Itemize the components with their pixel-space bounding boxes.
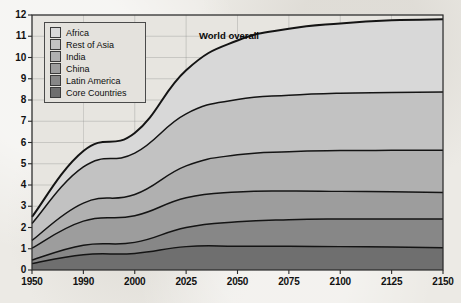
chart-legend: Africa Rest of Asia India China Latin Am… <box>44 22 146 103</box>
y-axis-tick-label: 12 <box>4 9 26 20</box>
y-axis-tick-label: 9 <box>4 73 26 84</box>
legend-swatch-latin-america <box>50 75 61 86</box>
legend-item-rest-of-asia: Rest of Asia <box>50 39 140 50</box>
x-axis-tick-label: 1990 <box>59 276 107 287</box>
y-axis-tick-label: 5 <box>4 158 26 169</box>
x-axis-tick-label: 2050 <box>214 276 262 287</box>
x-axis-tick-label: 1950 <box>8 276 56 287</box>
legend-swatch-africa <box>50 27 61 38</box>
legend-swatch-rest-of-asia <box>50 39 61 50</box>
legend-label-china: China <box>66 64 90 74</box>
y-axis-tick-label: 10 <box>4 52 26 63</box>
y-axis-tick-label: 2 <box>4 222 26 233</box>
legend-item-core-countries: Core Countries <box>50 87 140 98</box>
legend-item-latin-america: Latin America <box>50 75 140 86</box>
y-axis-tick-label: 0 <box>4 264 26 275</box>
x-axis-tick-label: 2075 <box>265 276 313 287</box>
y-axis-tick-label: 6 <box>4 137 26 148</box>
x-axis-tick-label: 2125 <box>368 276 416 287</box>
legend-label-latin-america: Latin America <box>66 76 121 86</box>
y-axis-tick-label: 11 <box>4 30 26 41</box>
y-axis-tick-label: 4 <box>4 179 26 190</box>
legend-label-rest-of-asia: Rest of Asia <box>66 40 114 50</box>
legend-item-china: China <box>50 63 140 74</box>
legend-label-core-countries: Core Countries <box>66 88 127 98</box>
legend-swatch-core-countries <box>50 87 61 98</box>
y-axis-tick-label: 8 <box>4 94 26 105</box>
legend-label-india: India <box>66 52 86 62</box>
legend-swatch-china <box>50 63 61 74</box>
x-axis-tick-label: 2000 <box>111 276 159 287</box>
y-axis-tick-label: 7 <box>4 115 26 126</box>
legend-label-africa: Africa <box>66 28 89 38</box>
world-overall-annotation: World overall <box>199 30 259 41</box>
legend-item-india: India <box>50 51 140 62</box>
population-projection-area-chart: Africa Rest of Asia India China Latin Am… <box>0 0 461 303</box>
y-axis-tick-label: 1 <box>4 243 26 254</box>
y-axis-tick-label: 3 <box>4 200 26 211</box>
x-axis-tick-label: 2025 <box>162 276 210 287</box>
x-axis-tick-label: 2100 <box>316 276 364 287</box>
x-axis-tick-label: 2150 <box>419 276 461 287</box>
legend-item-africa: Africa <box>50 27 140 38</box>
legend-swatch-india <box>50 51 61 62</box>
